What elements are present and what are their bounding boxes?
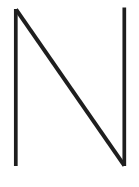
letter-n-diagonal (16, 9, 124, 165)
letter-canvas (0, 0, 139, 187)
letter-n-glyph (0, 0, 139, 187)
